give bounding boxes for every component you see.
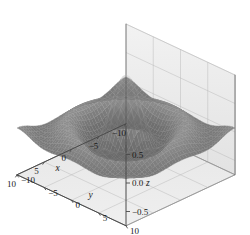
y-tick-2: 0 (76, 201, 81, 210)
z-tick-2: −0.5 (132, 208, 148, 217)
y-tick-3: 5 (103, 214, 108, 223)
x-tick-2: 0 (62, 154, 67, 163)
z-tick-1: 0.0 (132, 179, 143, 188)
z-axis-label: z (146, 179, 150, 189)
x-tick-1: −5 (89, 142, 99, 151)
x-tick-0: −10 (112, 129, 126, 138)
x-axis-label: x (56, 164, 60, 174)
x-tick-4: 10 (7, 180, 16, 189)
y-tick-0: −10 (21, 176, 35, 185)
z-tick-0: 0.5 (132, 151, 143, 160)
surface-plot-canvas (0, 0, 250, 235)
y-tick-4: 10 (130, 227, 139, 235)
y-axis-label: y (89, 191, 93, 201)
y-tick-1: −5 (48, 189, 58, 198)
